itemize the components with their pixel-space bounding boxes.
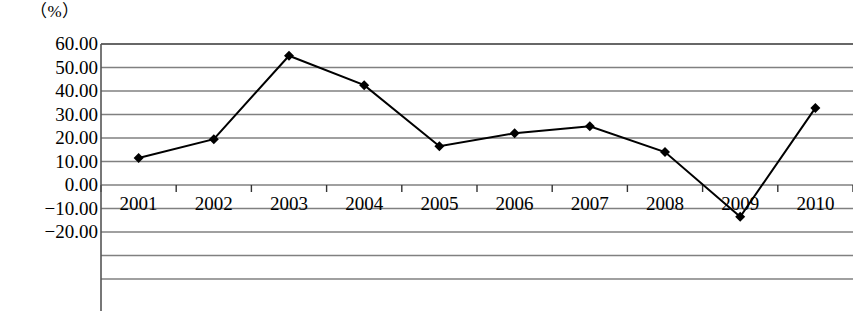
chart-container: （%） 60.0050.0040.0030.0020.0010.000.00−1… — [0, 0, 853, 311]
x-axis-tick-labels: 2001200220032004200520062007200820092010 — [0, 0, 853, 311]
x-axis-tick-label: 2003 — [270, 194, 308, 213]
x-axis-tick-label: 2008 — [646, 194, 684, 213]
x-axis-tick-label: 2001 — [120, 194, 158, 213]
x-axis-tick-label: 2005 — [420, 194, 458, 213]
x-axis-tick-label: 2002 — [195, 194, 233, 213]
x-axis-tick-label: 2004 — [345, 194, 383, 213]
x-axis-tick-label: 2007 — [571, 194, 609, 213]
x-axis-tick-label: 2009 — [721, 194, 759, 213]
x-axis-tick-label: 2010 — [796, 194, 834, 213]
x-axis-tick-label: 2006 — [496, 194, 534, 213]
